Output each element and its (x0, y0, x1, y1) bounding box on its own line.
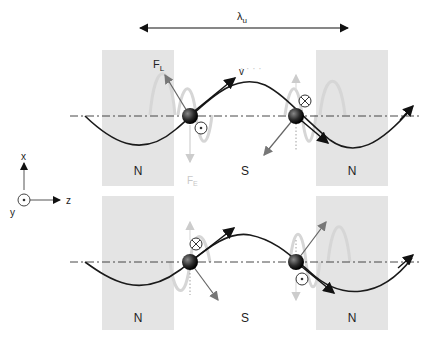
region-label-left-top: N (134, 164, 143, 178)
velocity-arrow (192, 78, 235, 113)
undulator-diagram: λu · · · · v FL FE (0, 0, 433, 338)
faint-field-waves (150, 74, 345, 142)
top-panel: · · · · v FL FE N S (70, 50, 420, 187)
electron-left-top (182, 108, 198, 124)
magnet-block-left-bottom (102, 196, 174, 330)
electron-right-top (288, 108, 304, 124)
coordinate-axes: x z y (10, 151, 71, 218)
wavelength-label: λu (237, 10, 247, 25)
electric-force-label: FE (187, 175, 198, 187)
region-label-middle-top: S (241, 164, 249, 178)
axis-label-x: x (21, 151, 26, 162)
region-label-left-bottom: N (134, 311, 143, 325)
electron-right-bottom (288, 254, 304, 270)
bottom-panel: N S N (70, 196, 420, 330)
region-label-middle-bottom: S (241, 311, 249, 325)
region-label-right-bottom: N (348, 311, 357, 325)
field-into-page-icon (299, 95, 311, 107)
axis-label-z: z (66, 195, 71, 206)
field-out-of-page-icon (195, 122, 207, 134)
electron-left-bottom (182, 254, 198, 270)
field-into-page-icon-bottom (190, 238, 202, 250)
field-out-of-page-icon-bottom (296, 273, 308, 285)
velocity-label: v (239, 66, 244, 77)
region-label-right-top: N (348, 164, 357, 178)
axis-label-y: y (10, 207, 15, 218)
wavelength-indicator: λu (140, 10, 348, 28)
magnet-block-right-bottom (316, 196, 388, 330)
